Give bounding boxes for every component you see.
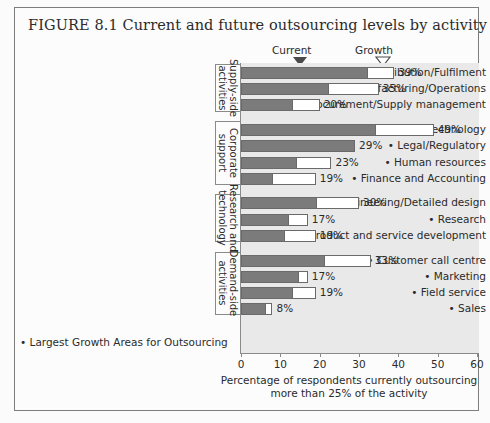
group-bracket-label: Supply-sideactivities [217, 59, 239, 117]
chart-footnote: • Largest Growth Areas for Outsourcing [20, 336, 214, 348]
x-axis-tick-label: 20 [313, 358, 326, 370]
x-axis-tick-label: 30 [352, 358, 365, 370]
bar-segment-growth [367, 67, 395, 79]
bar-value-label: 19% [320, 172, 343, 184]
x-axis-tick [477, 353, 478, 357]
bar-segment-growth [298, 271, 308, 283]
category-label: • Research [276, 213, 490, 225]
bar-segment-current [241, 99, 292, 111]
bar-value-label: 29% [359, 139, 382, 151]
bar-row [241, 303, 272, 315]
bar-segment-current [241, 255, 324, 267]
x-axis-tick [320, 353, 321, 357]
legend-growth-label: Growth [355, 44, 393, 56]
bar-segment-current [241, 303, 265, 315]
bar-value-label: 39% [398, 66, 421, 78]
bar-row [241, 157, 331, 169]
bar-value-label: 33% [375, 254, 398, 266]
bar-row [241, 140, 355, 152]
bar-row [241, 197, 359, 209]
bar-segment-growth [292, 287, 316, 299]
bar-segment-current [241, 124, 375, 136]
bar-row [241, 214, 308, 226]
legend-current-label: Current [272, 44, 311, 56]
x-axis-tick-label: 50 [431, 358, 444, 370]
group-bracket: Supply-sideactivities [215, 64, 240, 112]
x-axis-tick [438, 353, 439, 357]
bar-value-label: 19% [320, 286, 343, 298]
group-bracket: Demand-sideactivities [215, 252, 240, 316]
x-axis-title: Percentage of respondents currently outs… [215, 374, 483, 400]
bar-segment-current [241, 271, 298, 283]
group-bracket-label: Corporatesupport [217, 128, 239, 178]
bar-value-label: 49% [438, 123, 461, 135]
x-axis-tick [280, 353, 281, 357]
figure-title-text: Current and future outsourcing levels by… [122, 17, 487, 33]
bar-value-label: 30% [363, 196, 386, 208]
bar-segment-growth [265, 303, 273, 315]
bar-row [241, 99, 320, 111]
bar-segment-current [241, 214, 288, 226]
group-bracket-label: Research andtechnology [217, 184, 239, 252]
category-label: • Sales [276, 302, 490, 314]
bar-segment-growth [375, 124, 434, 136]
group-bracket: Research andtechnology [215, 194, 240, 242]
bar-value-label: 20% [324, 98, 347, 110]
bar-segment-current [241, 83, 328, 95]
bar-row [241, 255, 371, 267]
bar-value-label: 17% [312, 213, 335, 225]
bar-segment-current [241, 140, 355, 152]
bar-segment-growth [296, 157, 331, 169]
bar-segment-current [241, 287, 292, 299]
bar-segment-current [241, 67, 367, 79]
x-axis-tick-label: 0 [238, 358, 245, 370]
group-bracket: Corporatesupport [215, 121, 240, 185]
bar-value-label: 23% [335, 156, 358, 168]
bar-segment-current [241, 230, 284, 242]
bar-segment-growth [292, 99, 320, 111]
figure-number: FIGURE 8.1 [28, 17, 118, 33]
figure-title: FIGURE 8.1 Current and future outsourcin… [28, 17, 458, 33]
x-axis-tick-label: 60 [470, 358, 483, 370]
bar-row [241, 173, 316, 185]
bar-value-label: 17% [312, 270, 335, 282]
bar-segment-growth [284, 230, 315, 242]
x-axis-tick [398, 353, 399, 357]
bar-row [241, 124, 434, 136]
group-bracket-label: Demand-sideactivities [217, 250, 239, 317]
x-axis-tick [241, 353, 242, 357]
bar-value-label: 19% [320, 229, 343, 241]
bar-row [241, 67, 394, 79]
bar-segment-current [241, 173, 272, 185]
bar-row [241, 83, 379, 95]
bar-row [241, 271, 308, 283]
bar-row [241, 287, 316, 299]
bar-segment-growth [272, 173, 315, 185]
bar-segment-growth [324, 255, 371, 267]
x-axis-tick-label: 40 [392, 358, 405, 370]
bar-segment-current [241, 197, 316, 209]
x-axis-tick-label: 10 [274, 358, 287, 370]
x-axis-tick [359, 353, 360, 357]
category-label: • Marketing [276, 270, 490, 282]
bar-segment-growth [328, 83, 379, 95]
bar-segment-current [241, 157, 296, 169]
bar-row [241, 230, 316, 242]
bar-value-label: 8% [276, 302, 293, 314]
bar-value-label: 35% [383, 82, 406, 94]
figure-page: FIGURE 8.1 Current and future outsourcin… [0, 0, 490, 423]
bar-segment-growth [316, 197, 359, 209]
bar-segment-growth [288, 214, 308, 226]
